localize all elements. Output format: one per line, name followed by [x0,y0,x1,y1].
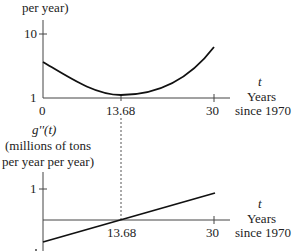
bottom-x-var: t [258,196,262,211]
bottom-xtick-30-label: 30 [206,225,219,240]
bottom-xtick-mid-label: 13.68 [107,225,136,240]
bottom-x-label-2: since 1970 [235,225,291,240]
top-curve [43,47,214,95]
top-x-label-1: Years [247,89,276,104]
bottom-chart: g''(t) (millions of tons per year per ye… [2,122,291,251]
top-xtick-mid-label: 13.68 [106,103,135,118]
top-x-var: t [258,74,262,89]
top-xtick-30-label: 30 [206,103,219,118]
chart-figure: per year) 10 1 0 13.68 30 t Years since … [0,0,292,251]
top-ytick-10-label: 10 [24,26,37,41]
top-ytick-1-label: 1 [30,90,37,105]
top-chart: per year) 10 1 0 13.68 30 t Years since … [22,0,291,118]
bottom-y-label-2: (millions of tons [5,138,91,153]
bottom-ytick-1-label: 1 [30,181,37,196]
bottom-y-label-1: g''(t) [32,122,56,137]
top-x-label-2: since 1970 [235,103,291,118]
bottom-y-label-3: per year per year) [2,154,94,169]
top-y-label: per year) [22,0,69,15]
bottom-x-label-1: Years [247,211,276,226]
top-xtick-0-label: 0 [39,103,46,118]
